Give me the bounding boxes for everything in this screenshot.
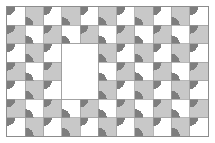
- hole-fill: [62, 44, 99, 99]
- hole-window: [62, 44, 99, 99]
- quilt-pattern-figure: [0, 0, 215, 143]
- quilt-pattern-canvas: [0, 0, 215, 143]
